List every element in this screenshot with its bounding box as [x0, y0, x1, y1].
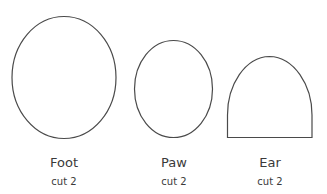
foot-count: cut 2 — [24, 176, 104, 187]
paw-shape — [135, 41, 213, 138]
foot-label: Foot — [24, 155, 104, 170]
ear-count: cut 2 — [230, 176, 310, 187]
paw-label: Paw — [134, 155, 214, 170]
foot-shape — [12, 17, 116, 139]
paw-count: cut 2 — [134, 176, 214, 187]
pattern-shapes — [0, 0, 327, 140]
ear-shape — [228, 57, 313, 138]
ear-label: Ear — [230, 155, 310, 170]
